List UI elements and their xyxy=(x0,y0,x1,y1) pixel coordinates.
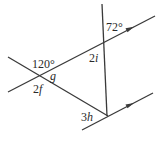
angle-label-2f: 2f xyxy=(33,82,44,96)
parallel-arrow-icon-lower xyxy=(126,103,135,108)
angle-label-3h: 3h xyxy=(81,110,93,124)
parallel-arrow-icon-upper xyxy=(126,27,135,32)
angle-label-72: 72° xyxy=(106,20,123,34)
angle-label-2i: 2i xyxy=(89,51,98,65)
angle-label-g: g xyxy=(50,69,56,83)
parallel-lines-angle-diagram: 72° 2i 120° g 2f 3h xyxy=(0,0,163,145)
